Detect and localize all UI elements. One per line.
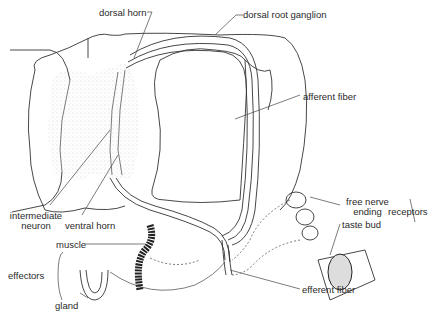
effector-drawings xyxy=(80,225,225,300)
diagram-drawing xyxy=(0,0,433,316)
label-ventral-horn: ventral horn xyxy=(65,220,115,231)
label-afferent-fiber: afferent fiber xyxy=(303,91,356,102)
reflex-arc-diagram: dorsal horn dorsal root ganglion afferen… xyxy=(0,0,433,316)
label-intermediate-neuron-line2: neuron xyxy=(6,220,66,231)
label-dorsal-root-ganglion: dorsal root ganglion xyxy=(243,9,326,20)
label-free-nerve-ending-line2: ending xyxy=(340,206,395,217)
label-dorsal-horn: dorsal horn xyxy=(99,7,147,18)
label-receptors: receptors xyxy=(388,206,428,217)
label-gland: gland xyxy=(55,300,78,311)
spinal-cord-section xyxy=(28,33,306,212)
label-taste-bud: taste bud xyxy=(342,219,381,230)
label-effectors: effectors xyxy=(8,270,44,281)
label-muscle: muscle xyxy=(56,239,86,250)
label-efferent-fiber: efferent fiber xyxy=(302,284,355,295)
